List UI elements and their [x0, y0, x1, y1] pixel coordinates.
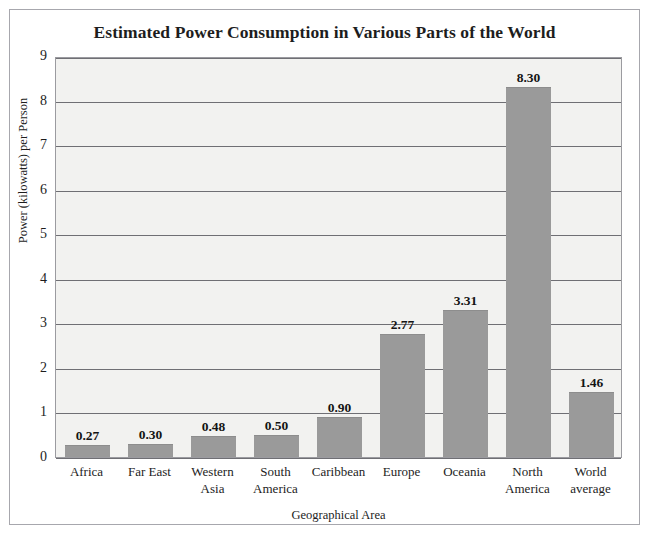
- bar: [254, 435, 299, 457]
- x-tick-line: North: [492, 463, 564, 480]
- x-tick-line: Western: [177, 463, 249, 480]
- bar: [128, 444, 173, 457]
- x-tick-label: SouthAmerica: [240, 463, 312, 497]
- x-tick-line: South: [240, 463, 312, 480]
- bar-value-label: 2.77: [373, 317, 433, 333]
- x-tick-line: America: [240, 480, 312, 497]
- y-tick-label: 2: [17, 360, 47, 376]
- scan-top-sliver: [0, 0, 651, 6]
- x-tick-line: Europe: [366, 463, 438, 480]
- bar: [65, 445, 110, 457]
- gridline: [56, 458, 621, 459]
- x-tick-label: Europe: [366, 463, 438, 480]
- x-axis-title: Geographical Area: [55, 508, 622, 523]
- chart-page: Estimated Power Consumption in Various P…: [0, 0, 651, 540]
- y-tick-label: 3: [17, 315, 47, 331]
- bar-value-label: 0.50: [247, 418, 307, 434]
- bar: [191, 436, 236, 457]
- x-tick-line: average: [555, 480, 627, 497]
- x-tick-label: NorthAmerica: [492, 463, 564, 497]
- x-tick-line: Asia: [177, 480, 249, 497]
- bar-value-label: 0.48: [184, 419, 244, 435]
- bar: [380, 334, 425, 457]
- bar-value-label: 1.46: [562, 375, 622, 391]
- x-tick-line: Far East: [114, 463, 186, 480]
- bar-value-label: 3.31: [436, 293, 496, 309]
- chart-title: Estimated Power Consumption in Various P…: [9, 22, 640, 43]
- x-tick-line: Caribbean: [303, 463, 375, 480]
- y-axis-title: Power (kilowatts) per Person: [16, 66, 31, 276]
- x-tick-label: Worldaverage: [555, 463, 627, 497]
- x-tick-label: Oceania: [429, 463, 501, 480]
- x-tick-label: Far East: [114, 463, 186, 480]
- x-tick-line: Oceania: [429, 463, 501, 480]
- y-tick-label: 0: [17, 449, 47, 465]
- y-tick-label: 9: [17, 48, 47, 64]
- bar: [569, 392, 614, 457]
- bar: [317, 417, 362, 457]
- plot-area: 0.270.300.480.500.902.773.318.301.46: [55, 57, 622, 458]
- x-tick-label: Africa: [51, 463, 123, 480]
- x-tick-line: Africa: [51, 463, 123, 480]
- x-tick-label: Caribbean: [303, 463, 375, 480]
- bar-value-label: 0.30: [121, 427, 181, 443]
- bar-value-label: 0.90: [310, 400, 370, 416]
- bar: [443, 310, 488, 457]
- bar-value-label: 0.27: [58, 428, 118, 444]
- y-tick-label: 1: [17, 404, 47, 420]
- bars-layer: 0.270.300.480.500.902.773.318.301.46: [56, 58, 621, 457]
- bar: [506, 87, 551, 457]
- bar-value-label: 8.30: [499, 70, 559, 86]
- x-tick-label: WesternAsia: [177, 463, 249, 497]
- x-tick-line: World: [555, 463, 627, 480]
- x-tick-line: America: [492, 480, 564, 497]
